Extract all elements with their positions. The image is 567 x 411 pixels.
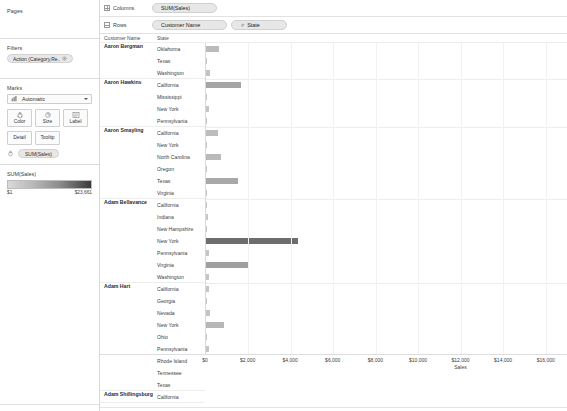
state-label[interactable]: Texas: [155, 175, 205, 187]
state-label[interactable]: California: [155, 127, 205, 139]
marks-card: Marks Automatic: [0, 78, 99, 164]
bar[interactable]: [206, 250, 209, 256]
x-axis-title: Sales: [454, 364, 467, 370]
color-legend-max: $23,661: [75, 190, 92, 195]
state-label[interactable]: Texas: [155, 55, 205, 67]
customer-name-label[interactable]: Aaron Smayling: [100, 127, 155, 198]
filter-target-icon[interactable]: [62, 56, 67, 61]
bar[interactable]: [206, 166, 207, 172]
bar[interactable]: [206, 334, 207, 340]
filters-card-title: Filters: [7, 45, 92, 51]
bar[interactable]: [206, 118, 207, 124]
x-gridline: [461, 43, 462, 354]
state-label[interactable]: California: [155, 391, 205, 403]
bar[interactable]: [206, 346, 209, 352]
customer-name-label[interactable]: Adam Bellavance: [100, 199, 155, 282]
state-label[interactable]: North Carolina: [155, 151, 205, 163]
bar[interactable]: [206, 322, 224, 328]
group-separator: [206, 79, 567, 80]
pages-card: Pages: [0, 0, 99, 38]
bar[interactable]: [206, 298, 207, 304]
left-panel-spacer: [0, 200, 99, 411]
bar-chart-canvas[interactable]: [205, 43, 567, 354]
state-label[interactable]: Virginia: [155, 187, 205, 199]
bar[interactable]: [206, 178, 238, 184]
state-label[interactable]: California: [155, 79, 205, 91]
x-gridline: [546, 43, 547, 354]
bar[interactable]: [206, 202, 207, 208]
bar[interactable]: [206, 94, 207, 100]
group-separator: [206, 199, 567, 200]
label-text-icon: [72, 111, 80, 119]
state-label[interactable]: Indiana: [155, 211, 205, 223]
bar[interactable]: [206, 142, 207, 148]
columns-shelf[interactable]: Columns SUM(Sales): [100, 0, 567, 17]
color-legend-card: SUM(Sales) $1 $23,661: [0, 164, 99, 200]
mark-type-value: Automatic: [22, 96, 81, 102]
state-label[interactable]: Washington: [155, 271, 205, 283]
color-legend-min: $1: [7, 190, 12, 195]
bar[interactable]: [206, 310, 210, 316]
plot-wrapper: Aaron BergmanOklahomaTexasWashingtonAaro…: [100, 43, 567, 354]
state-label[interactable]: Mississippi: [155, 91, 205, 103]
marks-detail-button[interactable]: Detail: [7, 131, 32, 145]
x-axis-tick: $8,000: [368, 357, 383, 363]
bar[interactable]: [206, 214, 208, 220]
bar[interactable]: [206, 130, 218, 136]
bar[interactable]: [206, 226, 207, 232]
customer-name-label[interactable]: Aaron Hawkins: [100, 79, 155, 126]
state-label[interactable]: New York: [155, 103, 205, 115]
rows-pill-state[interactable]: State: [231, 20, 287, 30]
state-label[interactable]: Georgia: [155, 295, 205, 307]
filter-pill-action-category[interactable]: Action (Category,Re..: [7, 54, 73, 63]
state-label[interactable]: Virginia: [155, 259, 205, 271]
x-axis: $0$2,000$4,000$6,000$8,000$10,000$12,000…: [100, 354, 567, 377]
rows-shelf[interactable]: Rows Customer Name State: [100, 17, 567, 34]
state-label[interactable]: California: [155, 283, 205, 295]
mark-type-dropdown[interactable]: Automatic: [7, 94, 92, 104]
state-label[interactable]: Washington: [155, 67, 205, 79]
customer-name-label[interactable]: Adam Shillingsburg: [100, 391, 155, 402]
color-legend-gradient[interactable]: [7, 180, 92, 189]
state-label[interactable]: Pennsylvania: [155, 247, 205, 259]
bar[interactable]: [206, 274, 209, 280]
marks-color-label: Color: [14, 120, 26, 125]
bar[interactable]: [206, 46, 219, 52]
bar[interactable]: [206, 82, 241, 88]
state-label[interactable]: New York: [155, 235, 205, 247]
state-label[interactable]: New Hampshire: [155, 223, 205, 235]
bar[interactable]: [206, 58, 207, 64]
state-label[interactable]: New York: [155, 319, 205, 331]
bar[interactable]: [206, 154, 221, 160]
left-panel-bottom-divider: [0, 404, 99, 405]
customer-name-label[interactable]: Aaron Bergman: [100, 43, 155, 78]
marks-color-button[interactable]: Color: [7, 109, 32, 127]
state-label[interactable]: California: [155, 199, 205, 211]
state-label[interactable]: Oregon: [155, 163, 205, 175]
chevron-down-icon[interactable]: [84, 98, 88, 100]
state-label[interactable]: Oklahoma: [155, 43, 205, 55]
bar[interactable]: [206, 106, 209, 112]
bar[interactable]: [206, 286, 209, 292]
state-label[interactable]: Nevada: [155, 307, 205, 319]
bar[interactable]: [206, 262, 248, 268]
state-label[interactable]: Pennsylvania: [155, 115, 205, 127]
rows-pill-customer-name[interactable]: Customer Name: [152, 20, 227, 30]
state-label[interactable]: Texas: [155, 379, 205, 391]
state-labels: CaliforniaNew YorkNorth CarolinaOregonTe…: [155, 127, 205, 198]
bar[interactable]: [206, 70, 210, 76]
marks-tooltip-button[interactable]: Tooltip: [35, 131, 60, 145]
state-labels: OklahomaTexasWashington: [155, 43, 205, 78]
sort-icon: [240, 23, 245, 28]
marks-size-button[interactable]: Size: [35, 109, 60, 127]
marks-label-button[interactable]: Label: [63, 109, 88, 127]
columns-pill-sum-sales[interactable]: SUM(Sales): [152, 3, 217, 13]
x-axis-tick: $4,000: [283, 357, 298, 363]
bar[interactable]: [206, 238, 298, 244]
customer-group: Adam BellavanceCaliforniaIndianaNew Hamp…: [100, 199, 205, 283]
bar[interactable]: [206, 190, 207, 196]
x-axis-tick: $2,000: [240, 357, 255, 363]
marks-field-pill-sum-sales[interactable]: SUM(Sales): [18, 149, 59, 158]
state-label[interactable]: Ohio: [155, 331, 205, 343]
state-label[interactable]: New York: [155, 139, 205, 151]
